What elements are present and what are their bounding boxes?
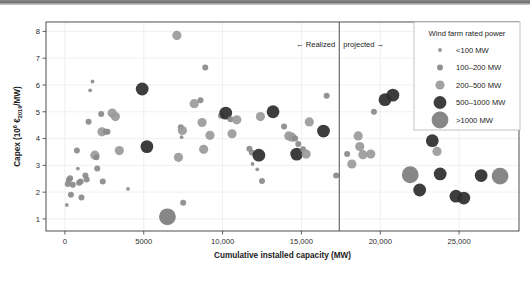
data-point xyxy=(344,151,350,157)
data-point xyxy=(371,109,377,115)
data-point xyxy=(434,168,447,181)
y-tick-label: 7 xyxy=(36,54,40,63)
data-point xyxy=(259,178,265,184)
legend-symbol xyxy=(434,96,447,109)
x-tick-label: 0 xyxy=(63,237,67,246)
data-point xyxy=(74,148,80,154)
data-point xyxy=(199,145,208,154)
data-point xyxy=(292,136,298,142)
data-point xyxy=(457,192,470,205)
data-point xyxy=(402,166,419,183)
legend-entry-label: <100 MW xyxy=(456,46,490,55)
legend-symbol xyxy=(435,80,444,89)
y-tick-label: 5 xyxy=(36,108,40,117)
data-point xyxy=(366,150,375,159)
data-point xyxy=(68,192,74,198)
legend-entry-label: 200–500 MW xyxy=(456,81,502,90)
data-point xyxy=(65,203,69,207)
data-point xyxy=(355,142,364,151)
x-tick-label: 10,000 xyxy=(211,237,234,246)
data-point xyxy=(317,125,330,138)
y-tick-label: 1 xyxy=(36,215,40,224)
data-point xyxy=(305,117,314,126)
data-point xyxy=(84,177,90,183)
data-point xyxy=(159,208,176,225)
scatter-plot-svg: ← Realizedprojected →0500010,00015,00020… xyxy=(0,0,530,286)
data-point xyxy=(70,182,76,188)
x-tick-label: 5000 xyxy=(135,237,152,246)
x-tick-label: 15,000 xyxy=(290,237,313,246)
data-point xyxy=(178,126,187,135)
data-point xyxy=(255,167,259,171)
legend-entry-label: 100–200 MW xyxy=(456,63,502,72)
data-point xyxy=(358,150,367,159)
data-point xyxy=(78,178,84,184)
data-point xyxy=(251,162,255,166)
y-axis: 12345678 xyxy=(36,27,46,224)
legend-entry-label: 500–1000 MW xyxy=(456,98,506,107)
data-point xyxy=(104,129,110,135)
data-point xyxy=(347,159,356,168)
data-point xyxy=(76,167,80,171)
data-point xyxy=(475,169,488,182)
data-point xyxy=(413,184,426,197)
data-point xyxy=(267,105,280,118)
y-tick-label: 4 xyxy=(36,134,40,143)
data-point xyxy=(190,99,199,108)
data-point xyxy=(426,134,439,147)
data-point xyxy=(205,131,214,140)
data-point xyxy=(197,118,206,127)
x-axis-title: Cumulative installed capacity (MW) xyxy=(214,251,351,260)
data-point xyxy=(172,31,181,40)
chart-figure: ← Realizedprojected →0500010,00015,00020… xyxy=(0,0,530,286)
data-point xyxy=(202,65,208,71)
data-point xyxy=(93,154,99,160)
legend-box xyxy=(414,22,520,130)
data-point xyxy=(88,88,92,92)
data-point xyxy=(492,168,509,185)
data-point xyxy=(115,146,124,155)
data-point xyxy=(432,147,441,156)
y-tick-label: 2 xyxy=(36,188,40,197)
data-point xyxy=(198,97,204,103)
x-tick-label: 20,000 xyxy=(369,237,392,246)
data-point xyxy=(180,200,186,206)
data-point xyxy=(354,131,363,140)
data-point xyxy=(78,195,84,201)
data-point xyxy=(136,83,149,96)
data-point xyxy=(232,115,241,124)
data-point xyxy=(333,173,339,179)
legend-symbol xyxy=(438,48,442,52)
data-point xyxy=(324,93,330,99)
legend: Wind farm rated power<100 MW100–200 MW20… xyxy=(414,22,520,130)
data-point xyxy=(98,111,104,117)
data-point xyxy=(67,175,73,181)
legend-symbol xyxy=(432,112,449,129)
data-point xyxy=(86,119,92,125)
data-point xyxy=(256,112,265,121)
data-point xyxy=(174,153,183,162)
data-point xyxy=(141,140,154,153)
legend-title: Wind farm rated power xyxy=(429,29,506,38)
data-point xyxy=(281,124,287,130)
legend-entry-label: >1000 MW xyxy=(456,116,494,125)
y-tick-label: 6 xyxy=(36,81,40,90)
y-tick-label: 8 xyxy=(36,27,40,36)
window-top-band xyxy=(0,0,530,5)
data-point xyxy=(252,149,265,162)
realized-label: ← Realized xyxy=(296,40,335,49)
data-point xyxy=(91,80,95,84)
data-point xyxy=(302,150,311,159)
data-point xyxy=(386,89,399,102)
data-point xyxy=(227,129,236,138)
data-point xyxy=(295,141,301,147)
data-point xyxy=(126,187,130,191)
projected-label: projected → xyxy=(343,40,384,49)
data-point xyxy=(100,178,106,184)
data-point xyxy=(180,135,184,139)
data-point xyxy=(111,112,120,121)
data-point xyxy=(94,166,100,172)
legend-symbol xyxy=(437,65,443,71)
x-axis: 0500010,00015,00020,00025,000 xyxy=(63,231,471,246)
y-axis-title: Capex (106 €2019/MW) xyxy=(12,86,23,167)
